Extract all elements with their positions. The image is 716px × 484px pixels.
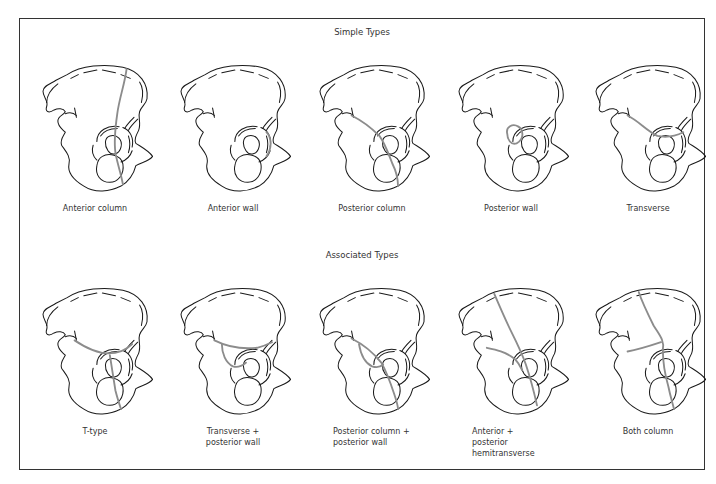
panel-caption: Posterior column + posterior wall <box>307 426 437 448</box>
fracture-line-icon <box>214 340 272 367</box>
fracture-line-icon <box>75 340 133 409</box>
panel-caption: Both column <box>583 426 713 437</box>
fracture-panel-anterior-wall: Anterior wall <box>168 41 298 214</box>
row-title-simple: Simple Types <box>20 27 704 37</box>
pelvis-posterior-column-icon <box>307 41 437 203</box>
pelvis-posterior-wall-icon <box>446 41 576 203</box>
fracture-panel-both-column: Both column <box>583 264 713 437</box>
fracture-panel-posterior-wall: Posterior wall <box>446 41 576 214</box>
fracture-panel-anterior-column: Anterior column <box>30 41 160 214</box>
panel-caption: Anterior wall <box>168 203 298 214</box>
fracture-panel-transverse-posterior-wall: Transverse + posterior wall <box>168 264 298 448</box>
pelvis-anterior-wall-icon <box>168 41 298 203</box>
pelvis-anterior-posterior-hemitransverse-icon <box>446 264 576 426</box>
pelvis-transverse-posterior-wall-icon <box>168 264 298 426</box>
pelvis-anterior-column-icon <box>30 41 160 203</box>
panel-caption: Anterior column <box>30 203 160 214</box>
fracture-panel-anterior-posterior-hemitransverse: Anterior + posterior hemitransverse <box>446 264 576 459</box>
fracture-panel-posterior-column: Posterior column <box>307 41 437 214</box>
panel-caption: Transverse + posterior wall <box>168 426 298 448</box>
fracture-line-icon <box>266 132 270 156</box>
fracture-panel-transverse: Transverse <box>583 41 713 214</box>
panel-caption: Posterior column <box>307 203 437 214</box>
figure-frame: Simple Types Associated Types Anterior c… <box>19 18 705 470</box>
fracture-panel-posterior-column-posterior-wall: Posterior column + posterior wall <box>307 264 437 448</box>
fracture-panel-t-type: T-type <box>30 264 160 437</box>
panel-caption: Anterior + posterior hemitransverse <box>446 426 576 459</box>
panel-caption: Posterior wall <box>446 203 576 214</box>
pelvis-posterior-column-posterior-wall-icon <box>307 264 437 426</box>
pelvis-transverse-icon <box>583 41 713 203</box>
pelvis-both-column-icon <box>583 264 713 426</box>
panel-caption: Transverse <box>583 203 713 214</box>
pelvis-t-type-icon <box>30 264 160 426</box>
panel-caption: T-type <box>30 426 160 437</box>
fracture-line-icon <box>115 69 127 184</box>
row-title-associated: Associated Types <box>20 250 704 260</box>
fracture-line-icon <box>628 292 674 409</box>
